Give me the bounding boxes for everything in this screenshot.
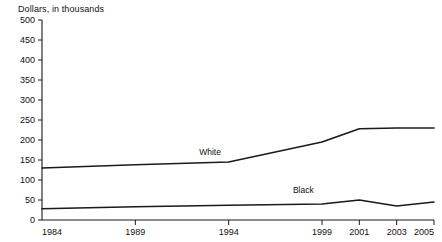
series-annotation-black: Black <box>293 185 315 195</box>
y-tick-label: 0 <box>30 215 35 225</box>
y-axis-ticks: 050100150200250300350400450500 <box>20 15 42 225</box>
x-tick-label: 1994 <box>219 227 239 237</box>
y-tick-label: 450 <box>20 35 35 45</box>
series-annotation-white: White <box>199 147 221 157</box>
x-tick-label: 1999 <box>312 227 332 237</box>
x-tick-label: 1984 <box>42 227 62 237</box>
y-tick-label: 50 <box>25 195 35 205</box>
y-tick-label: 100 <box>20 175 35 185</box>
y-tick-label: 500 <box>20 15 35 25</box>
y-tick-label: 200 <box>20 135 35 145</box>
series-annotation-group: WhiteBlack <box>195 147 318 196</box>
x-tick-label: 2001 <box>349 227 369 237</box>
data-line-black <box>42 200 434 209</box>
data-line-white <box>42 128 434 168</box>
y-tick-label: 400 <box>20 55 35 65</box>
y-tick-label: 250 <box>20 115 35 125</box>
x-tick-label: 2005 <box>414 227 434 237</box>
data-series-group <box>42 128 434 209</box>
line-chart: Dollars, in thousands 050100150200250300… <box>0 0 442 242</box>
chart-plot-area: 050100150200250300350400450500 198419891… <box>0 0 442 242</box>
y-tick-label: 150 <box>20 155 35 165</box>
y-tick-label: 300 <box>20 95 35 105</box>
y-tick-label: 350 <box>20 75 35 85</box>
x-tick-label: 1989 <box>125 227 145 237</box>
x-tick-label: 2003 <box>387 227 407 237</box>
x-axis-ticks: 1984198919941999200120032005 <box>42 220 434 237</box>
